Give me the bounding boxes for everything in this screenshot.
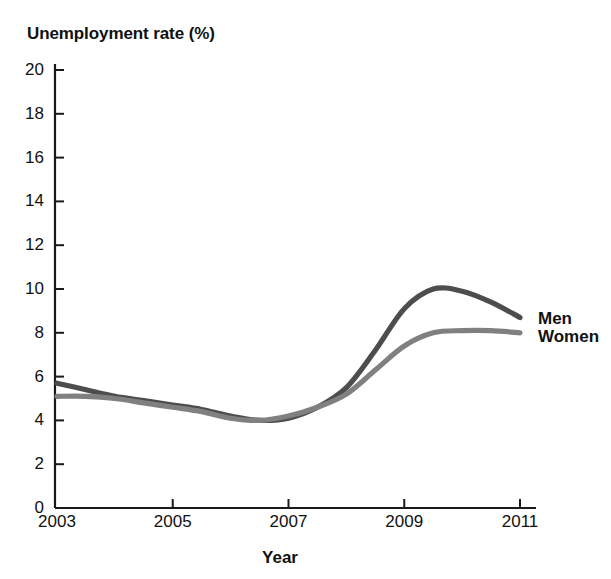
plot-area (0, 0, 611, 579)
unemployment-rate-line-chart: Unemployment rate (%) 02468101214161820 … (0, 0, 611, 579)
y-axis-ticks (55, 70, 64, 508)
x-axis-ticks (173, 499, 520, 508)
y-tick-label: 10 (2, 279, 44, 299)
x-tick-label: 2009 (385, 512, 423, 532)
y-tick-label: 18 (2, 104, 44, 124)
y-tick-label: 16 (2, 148, 44, 168)
y-tick-label: 2 (2, 454, 44, 474)
y-tick-label: 4 (2, 410, 44, 430)
x-axis-title: Year (0, 548, 560, 568)
axis-lines (55, 64, 536, 508)
y-tick-label: 12 (2, 235, 44, 255)
x-tick-label: 2005 (154, 512, 192, 532)
series-line-women (57, 330, 520, 420)
y-tick-label: 6 (2, 367, 44, 387)
x-tick-label: 2011 (502, 512, 539, 532)
x-tick-label: 2007 (270, 512, 308, 532)
y-tick-label: 20 (2, 60, 44, 80)
series-label-women: Women (538, 327, 599, 347)
y-tick-label: 8 (2, 323, 44, 343)
y-tick-label: 14 (2, 191, 44, 211)
series-lines (57, 288, 520, 421)
x-tick-label: 2003 (38, 512, 76, 532)
